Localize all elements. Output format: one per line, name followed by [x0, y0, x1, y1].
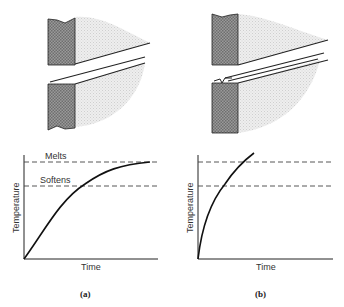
heat-zone-bottom — [238, 60, 320, 133]
lower-plate — [48, 84, 75, 130]
panel-a-illustration — [48, 17, 150, 130]
melts-label: Melts — [45, 151, 67, 161]
y-axis-label: Temperature — [185, 182, 195, 233]
upper-plate — [48, 18, 75, 65]
graph-a: Melts Softens Time Temperature (a) — [11, 151, 158, 299]
temperature-curve — [198, 153, 254, 259]
y-axis-label: Temperature — [11, 182, 21, 233]
upper-plate — [212, 14, 238, 65]
lower-plate — [212, 83, 238, 133]
x-axis-label: Time — [256, 262, 276, 272]
caption-b: (b) — [255, 289, 266, 299]
caption-a: (a) — [80, 289, 91, 299]
x-axis-label: Time — [81, 262, 101, 272]
heat-zone-top — [238, 14, 328, 65]
heat-zone-top — [75, 17, 150, 64]
figure: Melts Softens Time Temperature (a) Time … — [0, 0, 344, 307]
graph-b: Time Temperature (b) — [185, 153, 333, 299]
panel-b-illustration — [212, 14, 328, 133]
softens-label: Softens — [40, 175, 71, 185]
